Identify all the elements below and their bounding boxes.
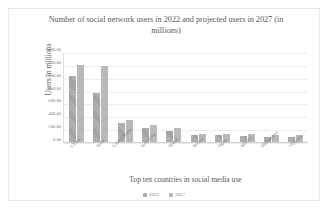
bar-series-container bbox=[64, 53, 308, 142]
bar-group bbox=[88, 53, 112, 142]
x-tick-slot: Japan bbox=[210, 143, 235, 175]
y-tick: 400.00 bbox=[48, 111, 61, 116]
y-tick: 600.00 bbox=[48, 98, 61, 103]
y-tick: 0.00 bbox=[53, 137, 61, 142]
y-tick: 1,000.00 bbox=[45, 73, 61, 78]
x-tick-slot: Indonesia bbox=[137, 143, 162, 175]
y-tick: 800.00 bbox=[48, 86, 61, 91]
legend-item-2027: 2027 bbox=[169, 192, 185, 197]
legend-item-2022: 2022 bbox=[143, 192, 159, 197]
bar-group bbox=[210, 53, 234, 142]
bar-group bbox=[284, 53, 308, 142]
bar-2027[interactable] bbox=[77, 65, 84, 142]
x-tick-slot: Philippines bbox=[259, 143, 284, 175]
x-tick-slot: China bbox=[63, 143, 88, 175]
x-axis-tick-labels: ChinaIndiaUnited StatesIndonesiaBrazilRu… bbox=[63, 143, 308, 175]
bar-group bbox=[113, 53, 137, 142]
legend-label: 2027 bbox=[175, 192, 185, 197]
bar-group bbox=[259, 53, 283, 142]
legend-label: 2022 bbox=[149, 192, 159, 197]
bar-group bbox=[186, 53, 210, 142]
bar-2022[interactable] bbox=[69, 76, 76, 142]
y-tick: 200.00 bbox=[48, 124, 61, 129]
bar-2022[interactable] bbox=[93, 93, 100, 142]
chart-legend: 2022 2027 bbox=[9, 192, 319, 197]
x-tick-slot: Mexico bbox=[235, 143, 260, 175]
x-axis-title: Top ten countries in social media use bbox=[63, 175, 308, 184]
plot-area bbox=[63, 53, 308, 143]
y-axis-tick-labels: 1,400.00 1,200.00 1,000.00 800.00 600.00… bbox=[23, 47, 61, 147]
x-tick-slot: Brazil bbox=[161, 143, 186, 175]
y-tick: 1,400.00 bbox=[45, 47, 61, 52]
chart-title: Number of social network users in 2022 a… bbox=[35, 15, 297, 36]
bar-2027[interactable] bbox=[101, 66, 108, 142]
bar-group bbox=[64, 53, 88, 142]
legend-swatch-icon bbox=[143, 193, 147, 197]
x-tick-slot: India bbox=[88, 143, 113, 175]
x-tick-slot: United States bbox=[112, 143, 137, 175]
x-tick-slot: Vietnam bbox=[284, 143, 309, 175]
x-tick-slot: Russia bbox=[186, 143, 211, 175]
bar-group bbox=[137, 53, 161, 142]
legend-swatch-icon bbox=[169, 193, 173, 197]
chart-container: Number of social network users in 2022 a… bbox=[8, 8, 320, 201]
bar-group bbox=[235, 53, 259, 142]
y-tick: 1,200.00 bbox=[45, 60, 61, 65]
bar-group bbox=[162, 53, 186, 142]
